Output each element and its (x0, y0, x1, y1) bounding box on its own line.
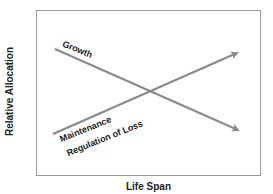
y-axis-label: Relative Allocation (4, 42, 15, 142)
maintenance-arrow (53, 53, 237, 134)
x-axis-label: Life Span (36, 181, 261, 192)
arrows-layer (0, 0, 273, 194)
growth-arrow (55, 49, 238, 130)
